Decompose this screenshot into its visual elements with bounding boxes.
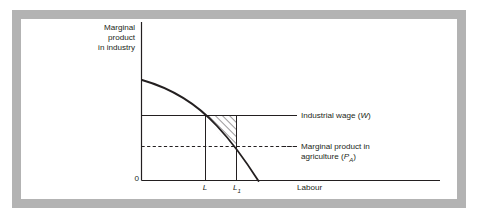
marginal-product-industry-curve: [142, 80, 259, 181]
figure-container: Marginalproductin industry 0 L L1 Labour…: [0, 0, 484, 224]
x-axis-title: Labour: [297, 183, 322, 193]
legend-label-agriculture-marginal-product: Marginal product inagriculture (PA): [301, 142, 421, 165]
x-tick-L-text: L: [203, 183, 208, 192]
x-tick-L1-subscript: 1: [238, 188, 241, 194]
legend-mpa-line1: Marginal product in: [301, 142, 370, 151]
legend-mpa-line2-suffix: ): [353, 152, 356, 161]
y-axis-title-line3: in industry: [98, 43, 135, 52]
legend-label-industrial-wage: Industrial wage (W): [301, 111, 371, 121]
legend-wage-text-end: ): [368, 111, 371, 120]
legend-wage-text: Industrial wage (: [301, 111, 360, 120]
legend-wage-symbol: W: [360, 111, 368, 120]
x-tick-label-L: L: [198, 183, 212, 193]
legend-mpa-line2-prefix: agriculture (: [301, 152, 344, 161]
origin-label: 0: [131, 174, 139, 184]
y-axis-title-line1: Marginal: [104, 23, 135, 32]
y-axis-title: Marginalproductin industry: [78, 23, 135, 54]
y-axis-title-line2: product: [108, 33, 135, 42]
x-tick-label-L1: L1: [229, 183, 245, 196]
